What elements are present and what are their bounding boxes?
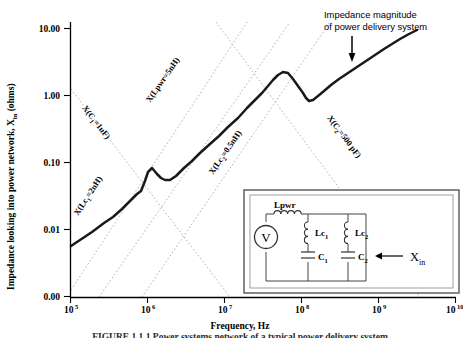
capacitor-c2-sub: 2 bbox=[365, 257, 368, 264]
svg-text:X(Lc2=0.5nH): X(Lc2=0.5nH) bbox=[206, 128, 244, 177]
guide-line-lc1 bbox=[71, 22, 247, 290]
x-tick-mantissa-1: 10 bbox=[141, 305, 151, 315]
x-tick-exp-3: 8 bbox=[306, 303, 310, 310]
xin-label-sub: in bbox=[419, 258, 425, 267]
inset-circuit-diagram: Lpwr V bbox=[244, 190, 459, 293]
y-axis-title-unit: (ohms) bbox=[6, 83, 17, 113]
y-tick-label-1: 1.00 bbox=[43, 91, 60, 101]
inductor-lc1-sub: 1 bbox=[325, 233, 328, 240]
inductor-lc2-sub: 2 bbox=[365, 233, 368, 240]
guide-label-c1-suffix: =1uF) bbox=[91, 118, 112, 142]
svg-text:X(C2=500 pF): X(C2=500 pF) bbox=[324, 113, 363, 161]
annotation-line-1: Impedance magnitude bbox=[324, 9, 417, 20]
x-tick-exp-5: 10 bbox=[457, 303, 463, 310]
guide-label-c2-prefix: X(C bbox=[325, 113, 342, 131]
x-tick-mantissa-0: 10 bbox=[64, 305, 74, 315]
x-axis-title: Frequency, Hz bbox=[211, 321, 271, 331]
svg-text:X(Lpwr=5nH): X(Lpwr=5nH) bbox=[143, 55, 181, 104]
capacitor-c1-sub: 1 bbox=[325, 257, 328, 264]
guide-label-lpwr-suffix: =5nH) bbox=[160, 55, 182, 80]
annotation-line-2: of power delivery system bbox=[324, 21, 427, 32]
x-tick-label-1e5: 10 5 bbox=[64, 303, 79, 315]
inductor-lc1-main: Lc bbox=[315, 228, 325, 238]
y-tick-label-0p1: 0.10 bbox=[43, 158, 60, 168]
inductor-lpwr-label: Lpwr bbox=[274, 200, 296, 210]
guide-label-lc1: X(Lc1=2nH) bbox=[71, 174, 105, 218]
y-tick-label-0p00: 0.00 bbox=[43, 292, 60, 302]
x-tick-mantissa-4: 10 bbox=[372, 305, 382, 315]
guide-label-c2-suffix: =500 pF) bbox=[336, 128, 363, 160]
guide-label-c2: X(C2=500 pF) bbox=[324, 113, 363, 161]
x-tick-exp-4: 9 bbox=[383, 303, 387, 310]
annotation-arrow-icon bbox=[349, 36, 356, 62]
figure-container: 10.00 1.00 0.10 0.01 0.00 10 5 10 6 10 7… bbox=[0, 0, 463, 338]
x-tick-mantissa-5: 10 bbox=[446, 305, 456, 315]
impedance-plot: 10.00 1.00 0.10 0.01 0.00 10 5 10 6 10 7… bbox=[0, 0, 463, 338]
xin-label-main: X bbox=[410, 250, 419, 264]
x-tick-mantissa-3: 10 bbox=[295, 305, 305, 315]
voltage-source-label: V bbox=[261, 230, 271, 245]
svg-text:X(Lc1=2nH): X(Lc1=2nH) bbox=[71, 174, 105, 218]
y-axis-title-main: Impedance looking into power network, X bbox=[6, 119, 16, 290]
y-tick-labels: 10.00 1.00 0.10 0.01 0.00 bbox=[39, 24, 61, 302]
y-tick-label-10: 10.00 bbox=[39, 24, 61, 34]
guide-label-lc2: X(Lc2=0.5nH) bbox=[206, 128, 244, 177]
guide-label-c1-prefix: X(C bbox=[80, 103, 97, 121]
guide-label-lc1-suffix: =2nH) bbox=[83, 174, 104, 199]
figure-caption: FIGURE 1.1.1 Power systems network of a … bbox=[92, 332, 388, 338]
x-tick-label-1e6: 10 6 bbox=[141, 303, 156, 315]
x-tick-exp-1: 6 bbox=[152, 303, 156, 310]
x-tick-exp-0: 5 bbox=[75, 303, 79, 310]
svg-text:X(C1=1uF): X(C1=1uF) bbox=[79, 103, 113, 142]
guide-label-lpwr: X(Lpwr=5nH) bbox=[143, 55, 181, 104]
x-tick-label-1e7: 10 7 bbox=[218, 303, 233, 315]
x-tick-labels: 10 5 10 6 10 7 10 8 10 9 10 10 bbox=[64, 303, 463, 315]
y-axis-title-group: Impedance looking into power network, Xi… bbox=[6, 83, 18, 290]
x-tick-exp-2: 7 bbox=[229, 303, 233, 310]
y-tick-label-0p01: 0.01 bbox=[43, 225, 60, 235]
x-tick-label-1e8: 10 8 bbox=[295, 303, 310, 315]
x-tick-mantissa-2: 10 bbox=[218, 305, 228, 315]
x-tick-label-1e9: 10 9 bbox=[372, 303, 387, 315]
inductor-lc2-main: Lc bbox=[355, 228, 365, 238]
y-axis-title: Impedance looking into power network, Xi… bbox=[6, 83, 18, 290]
x-tick-label-1e10: 10 10 bbox=[446, 303, 463, 315]
guide-label-c1: X(C1=1uF) bbox=[79, 103, 113, 142]
